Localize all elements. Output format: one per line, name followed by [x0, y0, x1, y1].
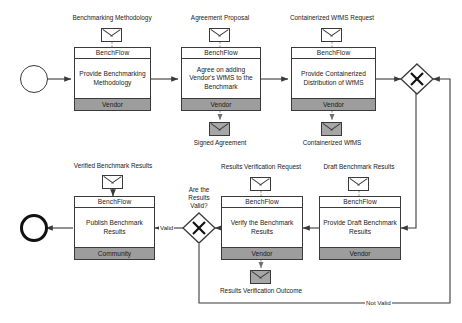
gateway-top-shape [401, 64, 433, 94]
task-role-label: Community [75, 247, 154, 259]
end-event[interactable] [20, 214, 48, 242]
task-name: Provide Benchmarking Methodology [75, 59, 150, 98]
task-role-label: Vendor [222, 247, 302, 259]
task-pool-label: BenchFlow [292, 48, 375, 59]
gateway-question-line-1: Are the [189, 186, 210, 194]
envelope-icon-containerized-wfms[interactable] [321, 122, 342, 136]
flow-label-valid: Valid [159, 224, 174, 231]
envelope-icon-verified-benchmark-results[interactable] [102, 175, 123, 189]
data-object-label-containerized-wfms-request: Containerized WfMS Request [290, 14, 374, 22]
bpmn-diagram-canvas: BenchFlow Provide Benchmarking Methodolo… [0, 0, 462, 323]
task-publish-benchmark-results[interactable]: BenchFlow Publish Benchmark Results Comm… [74, 196, 155, 260]
task-pool-label: BenchFlow [320, 197, 400, 208]
data-object-label-draft-benchmark-results: Draft Benchmark Results [323, 163, 394, 171]
data-object-label-benchmarking-methodology: Benchmarking Methodology [72, 14, 151, 22]
task-agree-on-adding-wfms[interactable]: BenchFlow Agree on adding Vendor's WfMS … [181, 47, 261, 111]
task-name: Provide Containerized Distribution of Wf… [292, 59, 375, 98]
start-event[interactable] [20, 65, 48, 93]
envelope-icon-results-verification-outcome[interactable] [250, 270, 271, 284]
data-object-label-results-verification-request: Results Verification Request [221, 163, 301, 171]
gateway-bottom-shape [183, 213, 215, 243]
data-object-label-verified-benchmark-results: Verified Benchmark Results [74, 162, 153, 170]
task-pool-label: BenchFlow [222, 197, 302, 208]
task-role-label: Vendor [75, 98, 150, 110]
task-name: Provide Draft Benchmark Results [320, 208, 400, 247]
envelope-icon-signed-agreement[interactable] [209, 122, 230, 136]
data-object-label-containerized-wfms: Containerized WfMS [303, 139, 362, 147]
task-name: Publish Benchmark Results [75, 208, 154, 247]
flow-label-not-valid: Not Valid [365, 299, 392, 306]
task-pool-label: BenchFlow [182, 48, 260, 59]
task-pool-label: BenchFlow [75, 48, 150, 59]
task-pool-label: BenchFlow [75, 197, 154, 208]
task-provide-containerized-distribution[interactable]: BenchFlow Provide Containerized Distribu… [291, 47, 376, 111]
gateway-question-line-3: Valid? [190, 202, 207, 210]
envelope-icon-draft-benchmark-results[interactable] [348, 177, 369, 191]
data-object-label-results-verification-outcome: Results Verification Outcome [220, 287, 302, 295]
task-role-label: Vendor [292, 98, 375, 110]
task-verify-the-benchmark-results[interactable]: BenchFlow Verify the Benchmark Results V… [221, 196, 303, 260]
envelope-icon-agreement-proposal[interactable] [209, 28, 230, 42]
envelope-icon-benchmarking-methodology[interactable] [101, 28, 122, 42]
task-role-label: Vendor [320, 247, 400, 259]
envelope-icon-results-verification-request[interactable] [250, 177, 271, 191]
task-name: Verify the Benchmark Results [222, 208, 302, 247]
task-provide-draft-benchmark-results[interactable]: BenchFlow Provide Draft Benchmark Result… [319, 196, 401, 260]
envelope-icon-containerized-wfms-request[interactable] [321, 28, 342, 42]
gateway-question-line-2: Results [188, 194, 209, 202]
data-object-label-signed-agreement: Signed Agreement [194, 139, 247, 147]
task-role-label: Vendor [182, 98, 260, 110]
task-name: Agree on adding Vendor's WfMS to the Ben… [182, 59, 260, 98]
task-provide-benchmarking-methodology[interactable]: BenchFlow Provide Benchmarking Methodolo… [74, 47, 151, 111]
data-object-label-agreement-proposal: Agreement Proposal [191, 14, 249, 22]
